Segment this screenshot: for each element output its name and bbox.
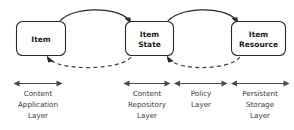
node-item-resource[interactable]: Item Resource [232, 22, 286, 56]
node-item-label: Item [31, 35, 50, 44]
solid-edge-item-state-to-item-resource [166, 10, 239, 25]
node-item-state-shape [126, 22, 174, 56]
span-arrow-content-repository-layer [124, 81, 171, 87]
span-arrow-persistent-storage-layer [231, 81, 290, 87]
architecture-diagram: Item Item State Item Resource [0, 0, 294, 130]
layer-label-content-repository-layer: Content Repository Layer [128, 89, 167, 120]
node-item-resource-label-line2: Resource [239, 40, 278, 49]
layer-label-line: Persistent [242, 89, 278, 98]
dashed-edge-item-resource-to-item-state [167, 56, 241, 68]
span-arrow-policy-layer [174, 81, 228, 87]
layer-label-line: Application [18, 100, 58, 109]
layer-label-line: Layer [28, 111, 48, 120]
layer-label-line: Policy [191, 89, 212, 98]
node-item-state-label-line1: Item [140, 30, 159, 39]
layer-label-policy-layer: Policy Layer [191, 89, 212, 109]
dashed-edge-item-state-to-item [47, 56, 132, 68]
solid-edge-item-to-item-state [58, 10, 132, 25]
layer-label-line: Content [133, 89, 162, 98]
layer-label-line: Layer [137, 111, 157, 120]
node-item-resource-label-line1: Item [249, 30, 268, 39]
layer-label-line: Storage [246, 100, 275, 109]
node-item-state-label-line2: State [138, 40, 161, 49]
layer-label-line: Repository [128, 100, 167, 109]
span-arrow-content-application-layer [14, 81, 63, 87]
layer-label-line: Content [24, 89, 53, 98]
node-item-resource-shape [232, 22, 286, 56]
layer-label-content-application-layer: Content Application Layer [18, 89, 58, 120]
layer-label-line: Layer [250, 111, 270, 120]
layer-label-line: Layer [191, 100, 211, 109]
node-item-state[interactable]: Item State [126, 22, 174, 56]
diagram-canvas: Item Item State Item Resource [0, 0, 294, 130]
layer-label-persistent-storage-layer: Persistent Storage Layer [242, 89, 278, 120]
node-item[interactable]: Item [17, 22, 66, 56]
